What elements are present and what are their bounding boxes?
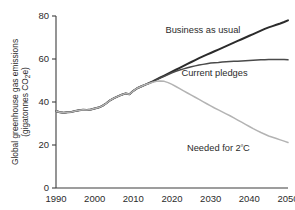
- annotation-current-pledges: Current pledges: [181, 68, 248, 78]
- y-tick-label: 0: [44, 182, 49, 193]
- x-tick-label: 2000: [84, 193, 105, 204]
- x-tick-label: 2030: [200, 193, 221, 204]
- annotation-business-as-usual: Business as usual: [165, 25, 240, 35]
- y-tick-label: 20: [38, 139, 49, 150]
- axes: 0204060801990200020102020203020402050: [38, 10, 295, 204]
- series-line-needed-for-2-c: [56, 81, 288, 142]
- chart-container: 0204060801990200020102020203020402050 Bu…: [0, 0, 295, 210]
- y-tick-label: 60: [38, 53, 49, 64]
- y-tick-label: 40: [38, 96, 49, 107]
- series-annotations: Business as usualCurrent pledgesNeeded f…: [165, 25, 250, 153]
- annotation-needed-for-2-c: Needed for 2ºC: [187, 143, 250, 154]
- emissions-line-chart: 0204060801990200020102020203020402050 Bu…: [0, 0, 295, 210]
- y-tick-label: 80: [38, 10, 49, 21]
- x-tick-label: 2040: [239, 193, 260, 204]
- data-series: [56, 20, 288, 142]
- y-axis-label-line1: Global greenhouse gas emissions: [10, 39, 20, 165]
- series-line-current-pledges: [56, 59, 288, 112]
- y-axis-title: Global greenhouse gas emissions(gigatonn…: [10, 39, 31, 165]
- y-axis-label-line2: (gigatonnes CO2e): [20, 67, 31, 137]
- x-tick-label: 2010: [123, 193, 144, 204]
- x-tick-label: 2050: [277, 193, 295, 204]
- x-tick-label: 2020: [161, 193, 182, 204]
- y-axis-label: Global greenhouse gas emissions(gigatonn…: [10, 39, 31, 165]
- x-tick-label: 1990: [45, 193, 66, 204]
